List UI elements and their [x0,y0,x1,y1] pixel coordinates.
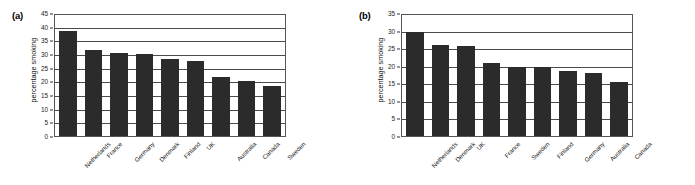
x-category-label: Netherlands [431,141,459,169]
x-category-label: Sweden [287,141,307,161]
x-category-label: Canada [261,141,281,161]
x-category-label: Finland [183,141,202,160]
x-category-label: Denmark [159,141,181,163]
x-category-label: Sweden [531,141,551,161]
chart-panel-b: (b) percentage smoking 05101520253035 Ne… [347,0,694,185]
x-category-label: France [504,141,522,159]
x-category-label: Germany [133,141,155,163]
x-axis-category-labels-b: NetherlandsDenmarkUKFranceSwedenFinlandG… [347,0,694,185]
plot-area-wrapper-a: 051015202530354045 NetherlandsFranceGerm… [0,0,347,185]
plot-area-wrapper-b: 05101520253035 NetherlandsDenmarkUKFranc… [347,0,694,185]
x-category-label: Finland [556,141,575,160]
x-category-label: UK [206,141,216,151]
x-category-label: Australia [609,141,630,162]
x-category-label: Canada [634,141,654,161]
x-category-label: Germany [583,141,605,163]
chart-panel-a: (a) percentage smoking 05101520253035404… [0,0,347,185]
x-category-label: UK [475,141,485,151]
x-axis-category-labels-a: NetherlandsFranceGermanyDenmarkFinlandUK… [0,0,347,185]
figure-two-bar-charts: (a) percentage smoking 05101520253035404… [0,0,695,185]
x-category-label: Australia [236,141,257,162]
